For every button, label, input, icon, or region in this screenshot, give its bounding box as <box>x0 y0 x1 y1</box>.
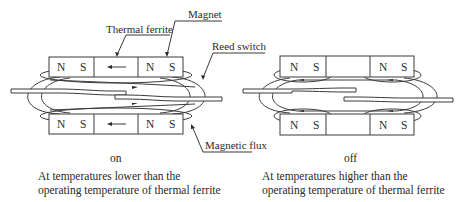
pole-n: N <box>146 118 155 130</box>
top-magnet-assembly: N S N S <box>49 57 183 77</box>
bottom-magnet-assembly: N S N S <box>280 114 414 135</box>
caption-line-1: At temperatures lower than the <box>38 170 180 183</box>
pole-n: N <box>379 61 388 73</box>
reed-switch-diagram: N S N S N S N S Thermal ferrite Magnet R… <box>0 0 463 202</box>
pole-s: S <box>313 61 319 73</box>
pole-n: N <box>146 61 155 73</box>
pole-n: N <box>57 118 66 130</box>
caption-line-2: operating temperature of thermal ferrite <box>262 184 445 197</box>
pole-n: N <box>290 61 299 73</box>
leader-reed-switch <box>203 53 265 78</box>
caption-line-1: At temperatures higher than the <box>262 170 408 183</box>
pole-n: N <box>379 119 388 131</box>
pole-s: S <box>401 119 407 131</box>
top-magnet-assembly: N S N S <box>280 56 414 77</box>
pole-s: S <box>169 61 175 73</box>
label-thermal-ferrite: Thermal ferrite <box>106 23 173 35</box>
flux-loop-left-inner <box>272 80 298 111</box>
flux-loop-left-inner <box>41 78 70 113</box>
bottom-magnet-assembly: N S N S <box>49 114 183 134</box>
caption-line-2: operating temperature of thermal ferrite <box>38 184 221 197</box>
pole-s: S <box>169 118 175 130</box>
right-panel-off: N S N S N S N S off At temperatures high… <box>243 56 453 197</box>
flux-arrow-top <box>132 86 138 89</box>
pole-n: N <box>290 119 299 131</box>
label-magnet: Magnet <box>188 8 222 20</box>
label-magnetic-flux: Magnetic flux <box>205 139 268 151</box>
pole-n: N <box>57 61 66 73</box>
state-label-on: on <box>110 152 122 164</box>
pole-s: S <box>401 61 407 73</box>
pole-s: S <box>313 119 319 131</box>
label-reed-switch: Reed switch <box>212 40 267 52</box>
flux-loop-right-inner <box>160 78 190 113</box>
left-panel-on: N S N S N S N S Thermal ferrite Magnet R… <box>11 8 268 197</box>
pole-s: S <box>80 118 86 130</box>
leader-thermal-ferrite <box>117 35 170 55</box>
reed-switch-open <box>243 88 453 102</box>
flux-loop-left-outer <box>28 77 60 114</box>
pole-s: S <box>80 61 86 73</box>
flux-loop-right-inner <box>396 80 423 111</box>
flux-arrow-bottom <box>132 103 138 105</box>
state-label-off: off <box>344 152 357 164</box>
